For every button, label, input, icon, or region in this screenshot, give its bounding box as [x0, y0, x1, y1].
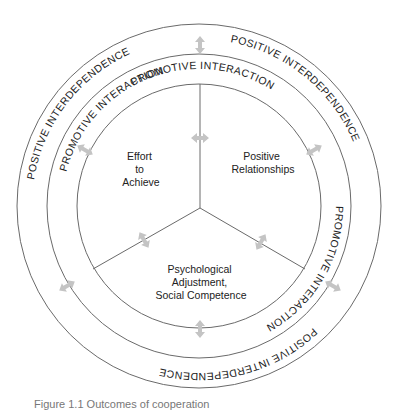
double-arrow-icon	[135, 230, 153, 251]
double-arrow-icon	[195, 320, 205, 338]
middle-ring	[47, 54, 351, 358]
outcome-effort-to-achieve: Effort to Achieve	[122, 150, 160, 188]
spoke-lower-right	[200, 208, 305, 269]
double-arrow-icon	[252, 232, 270, 253]
outcome-positive-relationships: Positive Relationships	[231, 150, 294, 175]
outer-label-bottom: POSITIVE INTERDEPENDENCE	[158, 326, 320, 383]
double-arrow-icon	[304, 141, 325, 159]
figure-caption: Figure 1.1 Outcomes of cooperation	[34, 398, 209, 410]
outcome-psychological-adjustment: Psychological Adjustment, Social Compete…	[155, 263, 246, 301]
outer-label-upper-right: POSITIVE INTERDEPENDENCE	[230, 32, 363, 143]
outer-label-upper-left: POSITIVE INTERDEPENDENCE	[24, 45, 131, 181]
double-arrow-icon	[195, 36, 205, 54]
spoke-lower-left	[93, 208, 200, 269]
